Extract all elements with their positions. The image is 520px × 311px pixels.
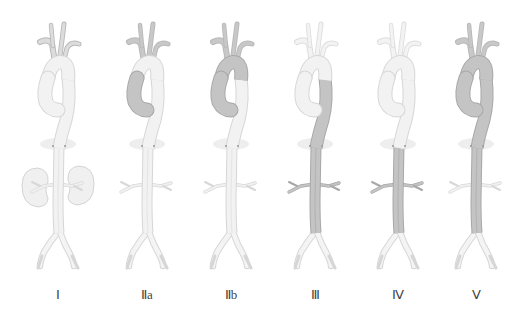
type-label-3: Ⅲ: [275, 287, 355, 303]
type-label-1: Ⅰ: [18, 287, 98, 303]
marker-dot: [225, 145, 227, 147]
renal-branch: [492, 186, 500, 190]
aorta-type-2b: [191, 0, 271, 311]
marker-dot: [237, 145, 239, 147]
left-iliac-artery: [478, 232, 492, 266]
aortic-dissection-figure: Ⅰ Ⅱa Ⅱb Ⅲ Ⅳ Ⅴ: [0, 0, 520, 311]
renal-branch: [372, 182, 380, 186]
aorta-type-5: [436, 0, 516, 311]
left-iliac-artery: [233, 232, 247, 266]
marker-dot: [153, 145, 155, 147]
renal-branch: [247, 186, 255, 190]
aorta-drawing: [191, 0, 271, 285]
renal-branch: [163, 186, 171, 190]
aorta-type-2a: [107, 0, 187, 311]
marker-dot: [470, 145, 472, 147]
marker-dot: [482, 145, 484, 147]
right-carotid-artery: [224, 25, 226, 46]
renal-branch: [331, 186, 339, 190]
type-label-2a: Ⅱa: [107, 287, 187, 303]
right-carotid-artery: [469, 25, 471, 46]
aorta-type-4: [358, 0, 438, 311]
right-carotid-artery: [140, 25, 142, 46]
renal-branch: [450, 182, 458, 186]
right-carotid-artery: [391, 25, 393, 46]
aorta-drawing: [358, 0, 438, 285]
aorta-type-1: [18, 0, 98, 311]
aorta-type-3: [275, 0, 355, 311]
aorta-drawing: [275, 0, 355, 285]
left-iliac-artery: [400, 232, 414, 266]
right-carotid-artery: [51, 25, 53, 46]
marker-dot: [321, 145, 323, 147]
aorta-drawing: [107, 0, 187, 285]
marker-dot: [64, 145, 66, 147]
type-label-5: Ⅴ: [436, 287, 516, 303]
renal-branch: [414, 186, 422, 190]
aorta-drawing: [18, 0, 98, 285]
type-label-4: Ⅳ: [358, 287, 438, 303]
renal-branch: [205, 182, 213, 186]
type-label-2b: Ⅱb: [191, 287, 271, 303]
renal-branch: [289, 182, 297, 186]
marker-dot: [392, 145, 394, 147]
marker-dot: [141, 145, 143, 147]
marker-dot: [404, 145, 406, 147]
marker-dot: [52, 145, 54, 147]
aorta-drawing: [436, 0, 516, 285]
left-iliac-artery: [60, 232, 74, 266]
left-iliac-artery: [317, 232, 331, 266]
right-carotid-artery: [308, 25, 310, 46]
renal-branch: [121, 182, 129, 186]
marker-dot: [309, 145, 311, 147]
left-iliac-artery: [149, 232, 163, 266]
